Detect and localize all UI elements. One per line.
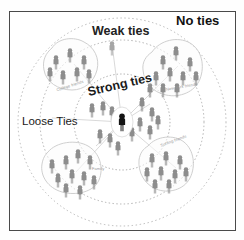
label-no-ties: No ties: [176, 14, 219, 27]
label-loose-ties: Loose Ties: [22, 116, 78, 128]
label-weak-ties: Weak ties: [92, 25, 149, 38]
diagram-stage: No ties Weak ties Strong ties Loose Ties…: [0, 0, 244, 240]
ego-person-icon: [111, 107, 133, 137]
person-isolated-weak-tie: [110, 41, 115, 55]
label-cluster-family: Family: [92, 167, 104, 172]
